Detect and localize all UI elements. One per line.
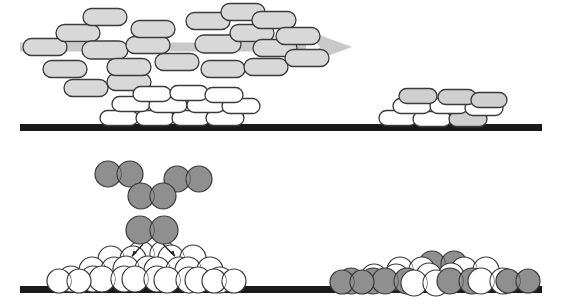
gas-capsule-8 <box>126 37 170 54</box>
island-left-capsule-0 <box>100 111 138 126</box>
diagram-svg <box>0 0 562 308</box>
island-left-capsule-9 <box>170 86 208 101</box>
gas-capsule-10 <box>155 54 199 71</box>
gas-capsule-19 <box>276 28 320 45</box>
gas-capsule-1 <box>43 61 87 78</box>
gas-capsule-2 <box>56 25 100 42</box>
island-left-capsule-8 <box>133 87 171 102</box>
free-molecule-2 <box>128 183 176 209</box>
gas-capsule-13 <box>201 61 245 78</box>
free-molecule-0 <box>95 161 143 187</box>
landing-dumbbell <box>126 216 178 244</box>
gas-capsule-4 <box>82 41 128 59</box>
figure-canvas <box>0 0 562 308</box>
gas-capsule-7 <box>107 59 151 76</box>
gas-capsule-20 <box>285 50 329 67</box>
free-molecules <box>95 161 212 209</box>
island-left-capsule-10 <box>205 88 243 103</box>
molecule-pile-right <box>330 251 540 296</box>
gas-capsule-9 <box>131 21 175 38</box>
gas-capsule-16 <box>252 12 296 29</box>
gas-capsule-5 <box>64 80 108 97</box>
molecule-pile-left <box>47 241 246 293</box>
island-right-capsule-7 <box>438 90 476 105</box>
capsule-island-left <box>100 86 260 126</box>
island-right-capsule-8 <box>471 93 507 108</box>
capsule-island-right <box>379 89 507 127</box>
island-right-capsule-6 <box>399 89 437 104</box>
gas-capsule-18 <box>244 59 288 76</box>
gas-capsule-3 <box>83 9 127 26</box>
